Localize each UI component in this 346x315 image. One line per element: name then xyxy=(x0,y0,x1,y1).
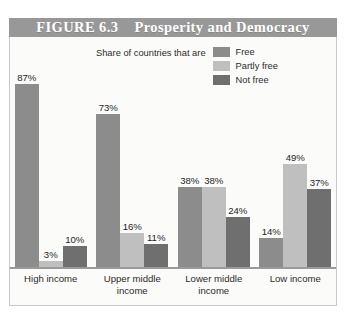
bar-value-label: 11% xyxy=(147,232,166,243)
category-label-line: Upper middle xyxy=(92,273,174,285)
bar-not-free xyxy=(63,246,87,267)
category-label: High income xyxy=(10,273,92,297)
legend-entries: FreePartly freeNot free xyxy=(213,46,278,85)
bar-not-free xyxy=(307,189,331,267)
bar-value-label: 38% xyxy=(204,175,223,186)
category-label-line: income xyxy=(173,285,255,297)
figure-container: FIGURE 6.3 Prosperity and Democracy 87%3… xyxy=(0,0,346,315)
legend-label: Not free xyxy=(236,75,269,85)
bar-value-label: 16% xyxy=(123,221,142,232)
bar-value-label: 3% xyxy=(44,249,58,260)
bar-value-label: 49% xyxy=(286,152,305,163)
bar-free xyxy=(96,114,120,267)
category-labels: High incomeUpper middleincomeLower middl… xyxy=(10,273,336,297)
category-label-line: Lower middle xyxy=(173,273,255,285)
bar-value-label: 37% xyxy=(310,177,329,188)
bar-free xyxy=(259,238,283,267)
category-label: Upper middleincome xyxy=(92,273,174,297)
category-label: Low income xyxy=(255,273,337,297)
bar-not-free xyxy=(226,217,250,267)
bar-free xyxy=(178,187,202,267)
bar-value-label: 24% xyxy=(228,205,247,216)
bar-partly-free xyxy=(202,187,226,267)
legend-row: Not free xyxy=(213,74,278,85)
bar-free xyxy=(15,84,39,267)
bar-item: 10% xyxy=(63,37,87,267)
category-label-line: income xyxy=(92,285,174,297)
category-label-line: High income xyxy=(10,273,92,285)
legend-swatch-partly-free xyxy=(213,61,230,71)
bar-partly-free xyxy=(120,233,144,267)
bar-item: 37% xyxy=(307,37,331,267)
legend-row: Free xyxy=(213,46,278,57)
bar-item: 49% xyxy=(283,37,307,267)
legend-row: Partly free xyxy=(213,60,278,71)
bar-item: 87% xyxy=(15,37,39,267)
bar-value-label: 73% xyxy=(99,102,118,113)
bar-value-label: 87% xyxy=(17,72,36,83)
legend-label: Free xyxy=(236,47,255,57)
page-title: FIGURE 6.3 Prosperity and Democracy xyxy=(36,19,309,36)
legend-caption: Share of countries that are xyxy=(96,46,206,59)
category-label: Lower middleincome xyxy=(173,273,255,297)
bar-item: 3% xyxy=(39,37,63,267)
legend-swatch-not-free xyxy=(213,75,230,85)
bar-value-label: 38% xyxy=(180,175,199,186)
bar-not-free xyxy=(144,244,168,267)
bar-value-label: 10% xyxy=(65,234,84,245)
bar-group: 87%3%10% xyxy=(10,37,92,267)
bar-partly-free xyxy=(283,164,307,267)
x-axis-line xyxy=(10,267,336,269)
legend-label: Partly free xyxy=(236,61,278,71)
figure-title-banner: FIGURE 6.3 Prosperity and Democracy xyxy=(9,18,337,37)
bar-value-label: 14% xyxy=(262,226,281,237)
chart-legend: Share of countries that are FreePartly f… xyxy=(96,46,278,85)
legend-swatch-free xyxy=(213,47,230,57)
category-label-line: Low income xyxy=(255,273,337,285)
